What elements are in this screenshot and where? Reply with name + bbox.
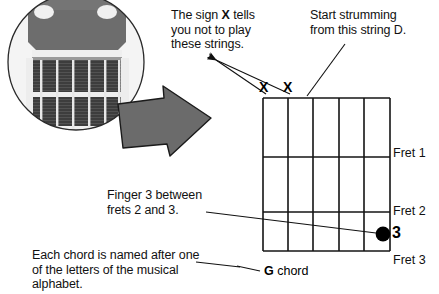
note-mute-strings-symbol: X — [222, 8, 230, 22]
note-mute-strings-part1: The sign — [171, 8, 222, 22]
note-start-strumming: Start strumming from this string D. — [310, 8, 438, 37]
note-mute-strings: The sign X tells you not to play these s… — [171, 8, 291, 52]
chord-name-letter: G — [264, 264, 274, 278]
fret-label-1: Fret 1 — [393, 147, 426, 160]
fret-label-2: Fret 2 — [393, 205, 426, 218]
chord-name-suffix: chord — [274, 264, 309, 278]
mute-marker-string-1: X — [259, 80, 268, 94]
chord-diagram-grid — [263, 98, 390, 251]
finger-number-label: 3 — [392, 225, 401, 241]
finger-position-dot — [376, 227, 391, 242]
leader-line-strum — [307, 44, 345, 96]
leader-line-mute-2 — [216, 60, 290, 94]
leader-line-chordname — [237, 266, 260, 271]
leader-line-finger — [206, 212, 376, 233]
note-chord-naming: Each chord is named after one of the let… — [32, 248, 237, 292]
figure-canvas: The sign X tells you not to play these s… — [0, 0, 439, 294]
fret-label-3: Fret 3 — [393, 254, 426, 267]
mute-marker-string-2: X — [283, 80, 292, 94]
note-finger-position: Finger 3 between frets 2 and 3. — [107, 188, 227, 217]
chord-name-label: G chord — [264, 265, 308, 278]
